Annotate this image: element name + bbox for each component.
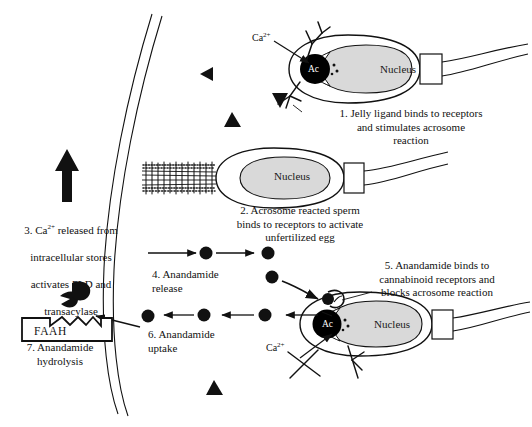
caption-step-5: 5. Anandamide binds to cannabinoid recep… xyxy=(346,259,528,300)
sperm-midpiece xyxy=(344,163,364,193)
caption-step-2: 2. Acrosome reacted sperm binds to recep… xyxy=(196,204,404,245)
caption-step-4: 4. Anandamide release xyxy=(152,268,256,295)
nucleus-label-sperm-3: Nucleus xyxy=(374,318,410,330)
anandamide-binding-arrow xyxy=(282,281,318,299)
calcium-release-arrow-big xyxy=(55,149,79,202)
nucleus-label-sperm-2: Nucleus xyxy=(274,170,310,182)
caption-step-1: 1. Jelly ligand binds to receptors and s… xyxy=(300,107,522,148)
acrosome-label-sperm-1: Ac xyxy=(308,64,319,74)
acrosomal-process-bristles xyxy=(143,165,215,191)
sperm-midpiece xyxy=(420,54,442,84)
caption-step-3-line4: transacylase xyxy=(44,305,98,317)
nucleus-label-sperm-1: Nucleus xyxy=(380,63,416,75)
sperm-midpiece xyxy=(432,310,453,339)
caption-step-7: 7. Anandamide hydrolysis xyxy=(8,341,112,368)
anandamide-particle xyxy=(142,310,155,323)
calcium-label-bottom: Ca2+ xyxy=(266,341,285,353)
caption-step-3: 3. Ca2+ released from intracellular stor… xyxy=(4,208,138,319)
calcium-label-top: Ca2+ xyxy=(252,31,271,43)
acrosome-label-sperm-3: Ac xyxy=(322,319,333,329)
jelly-triangle xyxy=(206,380,223,395)
caption-step-3-line2: intracellular stores xyxy=(30,251,112,263)
faah-label: FAAH xyxy=(34,325,67,337)
anandamide-particle xyxy=(198,309,211,322)
caption-step-3-line1: 3. Ca2+ released from xyxy=(24,224,118,236)
jelly-triangle xyxy=(200,67,213,81)
figure-canvas: 1. Jelly ligand binds to receptors and s… xyxy=(0,0,532,427)
jelly-ligand-receptor-bottom xyxy=(272,82,301,108)
anandamide-particle xyxy=(266,271,279,284)
caption-step-6: 6. Anandamide uptake xyxy=(148,328,258,355)
caption-step-3-line3: activates PLD and xyxy=(31,278,112,290)
anandamide-particle xyxy=(259,309,272,322)
acrosomal-process xyxy=(142,171,216,185)
jelly-triangle xyxy=(224,112,241,127)
jelly-triangle-bound xyxy=(272,93,288,108)
anandamide-bound xyxy=(322,293,334,305)
anandamide-particle xyxy=(262,247,275,260)
anandamide-particle xyxy=(200,247,213,260)
